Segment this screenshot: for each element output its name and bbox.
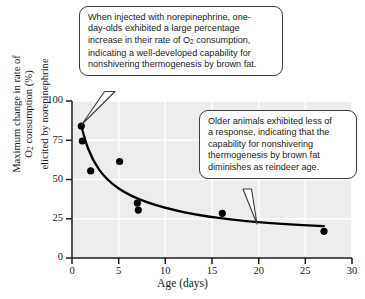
data-point bbox=[87, 167, 94, 174]
callout-one-line-3: increase in their rate of O2 consumption… bbox=[88, 35, 275, 48]
x-axis-ticks bbox=[72, 258, 352, 264]
x-axis-title-text: Age (days) bbox=[157, 277, 208, 289]
data-point bbox=[320, 228, 327, 235]
x-tick-label-25: 25 bbox=[297, 265, 313, 276]
annotation-callout-one: When injected with norepinephrine, one- … bbox=[79, 6, 283, 76]
callout-one-line-4: indicating a well-developed capability f… bbox=[88, 48, 275, 59]
x-axis-title: Age (days) bbox=[0, 277, 365, 289]
x-tick-label-30: 30 bbox=[344, 265, 360, 276]
data-point bbox=[134, 200, 141, 207]
data-point bbox=[116, 158, 123, 165]
callout-one-line-3b: consumption, bbox=[194, 35, 251, 45]
y-axis-ticks bbox=[66, 101, 72, 258]
data-point bbox=[135, 207, 142, 214]
y-axis-title-subscript: 2 bbox=[27, 146, 36, 150]
x-tick-label-10: 10 bbox=[157, 265, 173, 276]
y-axis-title: Maximum change in rate of O2 consumption… bbox=[9, 27, 53, 202]
callout-two-line-4: thermogenesis by brown fat bbox=[208, 150, 349, 161]
callout-one-line-5: nonshivering thermogenesis by brown fat. bbox=[88, 59, 275, 70]
x-tick-label-20: 20 bbox=[251, 265, 267, 276]
x-tick-label-15: 15 bbox=[204, 265, 220, 276]
data-point bbox=[219, 210, 226, 217]
y-tick-label-25: 25 bbox=[38, 212, 63, 223]
callout-one-line-2: day-olds exhibited a large percentage bbox=[88, 23, 275, 34]
data-point bbox=[79, 137, 86, 144]
callout-two-line-5: diminishes as reindeer age. bbox=[208, 162, 349, 173]
y-axis-title-consumption: consumption (%) bbox=[23, 70, 34, 146]
x-tick-label-0: 0 bbox=[64, 265, 80, 276]
y-axis-title-line-3: elicited by norepinephrine bbox=[38, 55, 50, 173]
y-axis-title-o: O bbox=[23, 150, 34, 158]
y-axis-title-line-2: O2 consumption (%) bbox=[23, 55, 38, 173]
callout-one-line-3a: increase in their rate of O bbox=[88, 35, 190, 45]
y-tick-label-0: 0 bbox=[38, 251, 63, 262]
callout-one-line-1: When injected with norepinephrine, one- bbox=[88, 12, 275, 23]
data-point bbox=[78, 123, 85, 130]
callout-two-line-1: Older animals exhibited less of bbox=[208, 116, 349, 127]
callout-two-line-3: capability for nonshivering bbox=[208, 139, 349, 150]
figure-container: 100 75 50 25 0 0 5 10 15 20 25 30 Age (d… bbox=[0, 0, 365, 299]
y-axis-title-line-1: Maximum change in rate of bbox=[11, 55, 23, 173]
x-tick-label-5: 5 bbox=[111, 265, 127, 276]
callout-two-line-2: a response, indicating that the bbox=[208, 127, 349, 138]
annotation-callout-two: Older animals exhibited less of a respon… bbox=[199, 110, 357, 179]
